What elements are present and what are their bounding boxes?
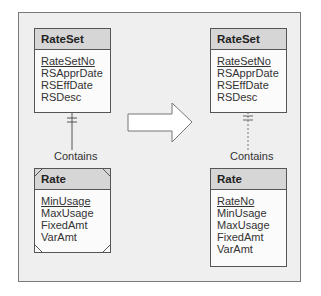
attribute: FixedAmt [217,231,286,243]
attribute: RSApprDate [217,67,286,79]
attribute-primary-key: RateSetNo [217,55,286,67]
attribute: RSDesc [41,91,110,103]
entity-title: RateSet [211,29,286,50]
attribute: RSDesc [217,91,286,103]
attribute: MinUsage [217,207,286,219]
attribute: RSApprDate [41,67,110,79]
attribute: RSEffDate [217,79,286,91]
relationship-label-right: Contains [229,150,274,162]
entity-title: Rate [211,169,286,190]
weak-entity-corner-marks [35,169,112,254]
attribute: MaxUsage [217,219,286,231]
entity-rate-left: Rate MinUsage MaxUsage FixedAmt VarAmt [34,168,111,253]
entity-title: RateSet [35,29,110,50]
entity-rate-right: Rate RateNo MinUsage MaxUsage FixedAmt V… [210,168,287,267]
attribute-list: RateNo MinUsage MaxUsage FixedAmt VarAmt [211,190,286,255]
attribute-primary-key: RateNo [217,195,286,207]
relationship-label-left: Contains [53,150,98,162]
attribute: VarAmt [217,243,286,255]
attribute-list: RateSetNo RSApprDate RSEffDate RSDesc [35,50,110,103]
entity-rateset-right: RateSet RateSetNo RSApprDate RSEffDate R… [210,28,287,113]
attribute: RSEffDate [41,79,110,91]
attribute-primary-key: RateSetNo [41,55,110,67]
entity-rateset-left: RateSet RateSetNo RSApprDate RSEffDate R… [34,28,111,113]
attribute-list: RateSetNo RSApprDate RSEffDate RSDesc [211,50,286,103]
right-arrow-icon [128,103,192,142]
